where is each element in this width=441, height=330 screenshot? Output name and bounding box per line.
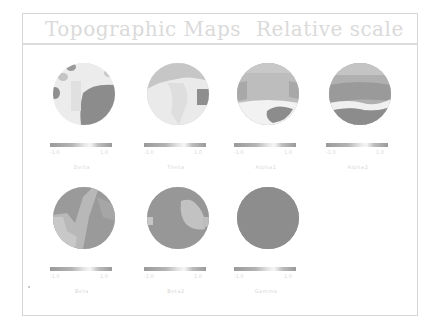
colorbar-max: 1.0 bbox=[376, 149, 384, 155]
colorbar-min: -1.0 bbox=[234, 273, 244, 279]
scalp-disc bbox=[237, 63, 299, 125]
title-bar: Topographic Maps Relative scale bbox=[23, 14, 417, 45]
colorbar-min: -1.0 bbox=[326, 149, 336, 155]
colorbar bbox=[144, 143, 206, 147]
colorbar bbox=[234, 267, 296, 271]
colorbar bbox=[234, 143, 296, 147]
colorbar-min: -1.0 bbox=[144, 149, 154, 155]
colorbar-min: -1.0 bbox=[144, 273, 154, 279]
scalp-disc bbox=[329, 63, 391, 125]
colorbar-min: -1.0 bbox=[234, 149, 244, 155]
scalp-disc bbox=[147, 187, 209, 249]
colorbar-max: 1.0 bbox=[100, 149, 108, 155]
title-topographic-maps: Topographic Maps bbox=[45, 17, 241, 41]
colorbar-max: 1.0 bbox=[194, 273, 202, 279]
topomap-alpha2: -1.0 1.0 Alpha2 bbox=[320, 63, 400, 173]
topomap-alpha1: -1.0 1.0 Alpha1 bbox=[228, 63, 308, 173]
colorbar bbox=[326, 143, 388, 147]
colorbar-min: -1.0 bbox=[50, 273, 60, 279]
scalp-disc bbox=[237, 187, 299, 249]
topomap-theta: -1.0 1.0 Theta bbox=[138, 63, 218, 173]
title-relative-scale: Relative scale bbox=[256, 17, 404, 41]
map-label: Alpha1 bbox=[228, 164, 304, 170]
colorbar bbox=[50, 143, 112, 147]
map-label: Beta bbox=[44, 288, 120, 294]
corner-marker bbox=[28, 286, 30, 288]
colorbar-max: 1.0 bbox=[284, 149, 292, 155]
colorbar-max: 1.0 bbox=[284, 273, 292, 279]
map-label: Alpha2 bbox=[320, 164, 396, 170]
map-label: Theta bbox=[138, 164, 214, 170]
colorbar-max: 1.0 bbox=[100, 273, 108, 279]
map-label: Gamma bbox=[228, 288, 304, 294]
colorbar-max: 1.0 bbox=[194, 149, 202, 155]
colorbar bbox=[144, 267, 206, 271]
colorbar bbox=[50, 267, 112, 271]
colorbar-min: -1.0 bbox=[50, 149, 60, 155]
topomap-beta2: -1.0 1.0 Beta2 bbox=[138, 187, 218, 297]
scalp-disc bbox=[53, 63, 115, 125]
topomap-gamma: -1.0 1.0 Gamma bbox=[228, 187, 308, 297]
scalp-disc bbox=[53, 187, 115, 249]
topomap-beta: -1.0 1.0 Beta bbox=[44, 187, 124, 297]
map-label: Beta2 bbox=[138, 288, 214, 294]
scalp-disc bbox=[147, 63, 209, 125]
map-label: Delta bbox=[44, 164, 120, 170]
topomap-delta: -1.0 1.0 Delta bbox=[44, 63, 124, 173]
